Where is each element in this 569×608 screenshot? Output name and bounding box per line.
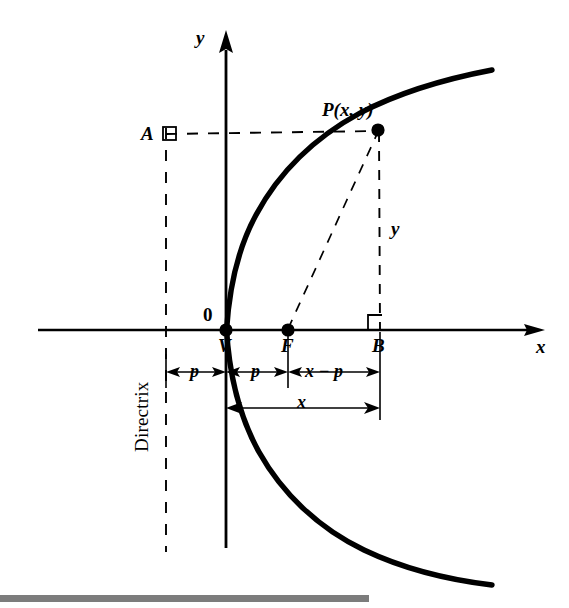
dimension-label-p-left: p: [190, 362, 199, 380]
segment-focus-to-p: [288, 134, 377, 329]
y-axis-label: y: [196, 28, 204, 47]
dimension-label-x-minus-p: x − p: [305, 362, 343, 380]
dimension-label-x-minus-p-text: x − p: [305, 361, 343, 381]
foot-b-label: B: [372, 336, 385, 355]
point-a-label: A: [141, 124, 154, 143]
segment-p-to-b: [379, 132, 380, 329]
parabola-lower-branch: [227, 329, 493, 585]
segment-a-to-p: [166, 131, 378, 134]
x-axis-label: x: [536, 337, 546, 356]
point-p-label-text: P(x, y): [322, 99, 374, 120]
directrix-label: Directrix: [132, 382, 151, 452]
dimension-label-p-right: p: [251, 362, 260, 380]
vertex-label: V: [218, 336, 231, 355]
parabola-diagram: [0, 0, 569, 608]
height-y-label: y: [391, 219, 399, 238]
figure-root: y x A P(x, y) 0 V F B y p p x − p x Dire…: [0, 0, 569, 608]
point-p-dot: [371, 123, 384, 136]
focus-label: F: [281, 336, 294, 355]
point-p-label: P(x, y): [322, 100, 374, 119]
bottom-rule-bar: [0, 595, 369, 602]
dimension-label-x: x: [297, 393, 306, 411]
origin-label: 0: [203, 305, 213, 324]
